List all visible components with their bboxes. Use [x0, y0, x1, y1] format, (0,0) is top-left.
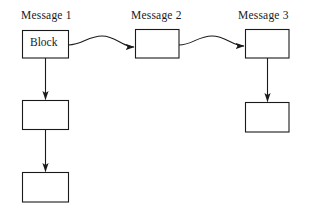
connector-block-to-message-2	[69, 36, 135, 47]
box-label-block: Block	[30, 36, 57, 48]
label-message-3: Message 3	[238, 9, 289, 21]
box-message-1-row-3	[23, 173, 69, 203]
box-message-1-row-2	[23, 101, 69, 130]
label-message-2: Message 2	[131, 9, 182, 21]
box-message-2-row-1	[136, 30, 180, 59]
connector-message-2-to-message-3	[179, 36, 244, 46]
box-message-3-row-2	[246, 103, 290, 133]
diagram-canvas	[0, 0, 316, 214]
box-message-3-row-1	[246, 30, 290, 59]
block-diagram: Message 1 Message 2 Message 3 Block	[0, 0, 316, 214]
label-message-1: Message 1	[21, 9, 72, 21]
